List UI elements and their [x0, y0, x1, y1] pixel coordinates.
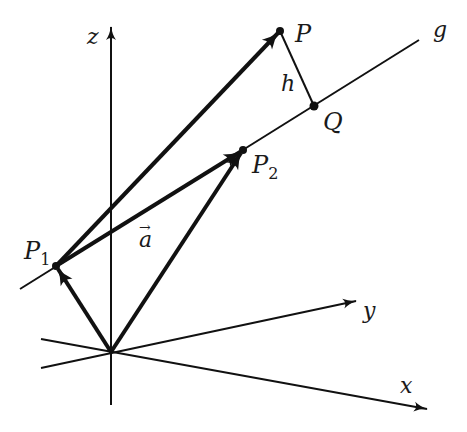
- label-h: h: [281, 71, 295, 96]
- label-p2-subscript: 2: [268, 164, 278, 183]
- point-p1: [52, 262, 60, 270]
- label-q: Q: [323, 108, 343, 136]
- vector-geometry-diagram: z y x g P Q h P1 P2 a →: [0, 0, 467, 432]
- label-z: z: [86, 24, 99, 49]
- label-y: y: [362, 298, 376, 323]
- label-p1: P1: [23, 237, 50, 269]
- label-g: g: [433, 17, 447, 42]
- labels: z y x g P Q h P1 P2 a →: [23, 17, 447, 398]
- vectors: [56, 33, 278, 352]
- label-vector-a-arrow: →: [139, 219, 151, 235]
- label-p1-main: P: [23, 237, 41, 265]
- point-p: [276, 27, 284, 35]
- point-q: [310, 102, 319, 111]
- vector-origin-to-p2: [111, 153, 241, 352]
- diagram-canvas: z y x g P Q h P1 P2 a →: [0, 0, 467, 432]
- coordinate-axes: [41, 27, 427, 409]
- label-p: P: [294, 20, 312, 48]
- label-p2-main: P: [251, 151, 269, 179]
- x-axis: [41, 339, 427, 409]
- origin-point: [109, 350, 113, 354]
- label-x: x: [400, 373, 413, 398]
- y-axis: [41, 301, 356, 368]
- point-p2: [239, 146, 247, 154]
- vector-origin-to-p1: [58, 269, 111, 352]
- points: [52, 27, 319, 354]
- label-p1-subscript: 1: [40, 250, 50, 269]
- label-p2: P2: [251, 151, 278, 183]
